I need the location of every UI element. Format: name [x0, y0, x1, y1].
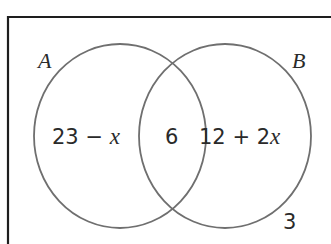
set-b-label: B [292, 48, 305, 73]
region-only-b-variable: x [269, 124, 281, 149]
region-intersection: 6 [165, 125, 178, 149]
venn-diagram: A B 23 − x 6 12 + 2x 3 [0, 0, 331, 244]
set-a-label: A [36, 48, 52, 73]
region-only-a: 23 − x [52, 124, 121, 149]
region-only-b-number: 12 + 2 [199, 125, 270, 149]
region-outside: 3 [283, 210, 296, 234]
region-only-b: 12 + 2x [199, 124, 281, 149]
region-only-a-variable: x [109, 124, 121, 149]
region-only-a-number: 23 [52, 125, 79, 149]
region-only-a-operator: − [79, 125, 110, 149]
